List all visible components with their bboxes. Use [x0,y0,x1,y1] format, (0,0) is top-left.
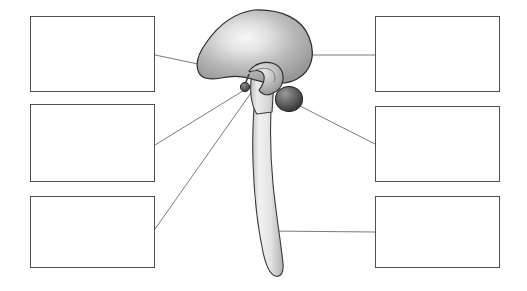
pituitary-gland-shape [240,82,249,91]
label-box-left-3[interactable] [30,196,155,268]
label-box-right-2[interactable] [375,106,500,182]
anatomy-diagram [0,0,527,291]
label-box-right-3[interactable] [375,196,500,268]
cerebrum-shape [197,10,312,84]
label-box-right-1[interactable] [375,16,500,92]
cerebellum-shape [276,87,303,112]
label-box-left-2[interactable] [30,104,155,182]
label-box-left-1[interactable] [30,16,155,92]
